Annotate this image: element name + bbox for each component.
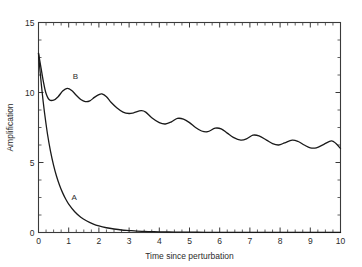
y-tick-label: 0	[30, 228, 35, 238]
amplification-vs-time-chart: 012345678910 051015 AB Time since pertur…	[0, 0, 362, 267]
y-tick-label: 15	[25, 18, 35, 28]
y-axis-title: Amplification	[5, 103, 15, 151]
x-tick-label: 0	[36, 236, 41, 246]
series-label-a: A	[71, 193, 77, 202]
y-tick-label: 5	[30, 158, 35, 168]
chart-figure: 012345678910 051015 AB Time since pertur…	[0, 0, 362, 267]
x-tick-label: 1	[66, 236, 71, 246]
x-tick-label: 3	[127, 236, 132, 246]
x-tick-label: 2	[97, 236, 102, 246]
x-tick-label: 9	[308, 236, 313, 246]
series-label-b: B	[73, 72, 78, 81]
x-tick-label: 4	[157, 236, 162, 246]
y-tick-label: 10	[25, 88, 35, 98]
x-tick-label: 10	[336, 236, 346, 246]
x-tick-label: 5	[187, 236, 192, 246]
x-tick-label: 7	[248, 236, 253, 246]
x-tick-label: 8	[278, 236, 283, 246]
x-axis-title: Time since perturbation	[145, 251, 234, 261]
x-tick-label: 6	[217, 236, 222, 246]
chart-background	[0, 0, 362, 267]
